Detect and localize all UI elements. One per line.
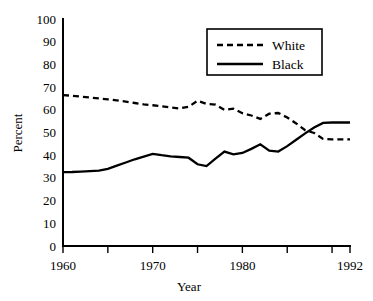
series-line-black: [63, 123, 350, 173]
y-tick-label: 80: [43, 57, 56, 72]
y-tick-label: 30: [43, 170, 56, 185]
chart-canvas: 0102030405060708090100 1960197019801992 …: [0, 0, 373, 301]
y-axis-tick-labels: 0102030405060708090100: [37, 12, 57, 254]
legend: White Black: [207, 29, 322, 75]
x-axis-tick-marks: [63, 246, 350, 253]
y-axis-title: Percent: [10, 113, 25, 152]
x-tick-label: 1992: [337, 258, 363, 273]
y-tick-label: 10: [43, 216, 56, 231]
x-axis-title: Year: [177, 279, 202, 294]
x-tick-label: 1970: [140, 258, 166, 273]
x-axis-tick-labels: 1960197019801992: [50, 258, 363, 273]
line-chart: 0102030405060708090100 1960197019801992 …: [0, 0, 373, 301]
y-tick-label: 100: [37, 12, 57, 27]
x-tick-label: 1960: [50, 258, 76, 273]
x-tick-label: 1980: [229, 258, 255, 273]
y-tick-label: 50: [43, 125, 56, 140]
y-tick-label: 90: [43, 34, 56, 49]
legend-label-black: Black: [272, 57, 304, 72]
y-tick-label: 20: [43, 193, 56, 208]
legend-label-white: White: [272, 38, 305, 53]
y-tick-label: 0: [50, 239, 57, 254]
y-tick-label: 60: [43, 102, 56, 117]
y-tick-label: 70: [43, 80, 56, 95]
y-tick-label: 40: [43, 148, 56, 163]
